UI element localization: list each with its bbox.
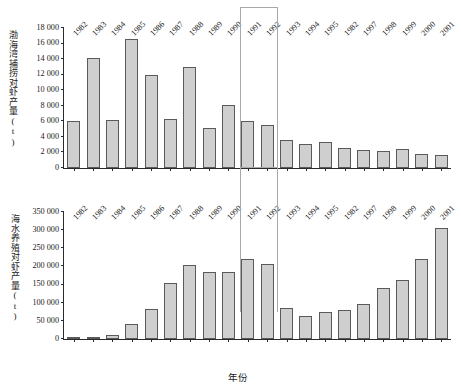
bar xyxy=(338,310,351,339)
bar xyxy=(280,308,293,339)
bar xyxy=(145,309,158,339)
bar xyxy=(415,154,428,168)
y-tick-label: 16 000 xyxy=(36,39,64,47)
y-tick-label: 50 000 xyxy=(36,317,64,325)
x-tick-mark xyxy=(228,339,229,342)
x-tick-mark xyxy=(287,168,288,171)
y-tick-label: 150 000 xyxy=(32,280,64,288)
x-tick-mark xyxy=(248,168,249,171)
x-tick-mark xyxy=(74,339,75,342)
y-axis-title-bottom: 海水养殖对虾产量(t) xyxy=(10,214,19,344)
bar xyxy=(261,264,274,339)
chart-panel-capture: 渤海湾捕捞对虾产量(t) 02 0004 0006 0008 00010 000… xyxy=(0,0,461,200)
x-tick-mark xyxy=(151,168,152,171)
bar-series-aquaculture xyxy=(64,212,451,339)
x-tick-mark xyxy=(403,339,404,342)
y-tick-label: 200 000 xyxy=(32,262,64,270)
x-tick-mark xyxy=(383,168,384,171)
x-tick-mark xyxy=(287,339,288,342)
bar xyxy=(357,304,370,339)
x-tick-mark xyxy=(267,168,268,171)
x-tick-mark xyxy=(403,168,404,171)
x-tick-mark xyxy=(345,339,346,342)
bar xyxy=(125,324,138,339)
bar xyxy=(338,148,351,168)
bar xyxy=(203,272,216,339)
bar xyxy=(67,121,80,168)
figure-container: 渤海湾捕捞对虾产量(t) 02 0004 0006 0008 00010 000… xyxy=(0,0,461,387)
bar xyxy=(261,125,274,168)
bar xyxy=(396,149,409,168)
x-tick-mark xyxy=(306,339,307,342)
x-tick-mark xyxy=(190,339,191,342)
x-tick-mark xyxy=(383,339,384,342)
x-tick-mark xyxy=(112,339,113,342)
bar xyxy=(222,105,235,168)
x-tick-mark xyxy=(209,339,210,342)
x-tick-mark xyxy=(93,339,94,342)
x-tick-mark xyxy=(441,168,442,171)
x-tick-mark xyxy=(209,168,210,171)
y-tick-label: 18 000 xyxy=(36,24,64,32)
bar xyxy=(222,272,235,339)
x-tick-mark xyxy=(170,168,171,171)
bar xyxy=(125,39,138,168)
bar xyxy=(164,283,177,339)
x-tick-mark xyxy=(345,168,346,171)
y-tick-label: 250 000 xyxy=(32,244,64,252)
y-tick-label: 12 000 xyxy=(36,71,64,79)
x-tick-mark xyxy=(267,339,268,342)
y-tick-label: 300 000 xyxy=(32,226,64,234)
x-tick-mark xyxy=(93,168,94,171)
y-tick-label: 0 xyxy=(55,335,64,343)
plot-area-top: 02 0004 0006 0008 00010 00012 00014 0001… xyxy=(63,28,451,169)
bar xyxy=(106,120,119,168)
y-tick-label: 100 000 xyxy=(32,299,64,307)
bar xyxy=(319,142,332,168)
x-tick-mark xyxy=(190,168,191,171)
y-tick-label: 6 000 xyxy=(41,117,64,125)
y-tick-label: 0 xyxy=(55,164,64,172)
x-tick-mark xyxy=(132,168,133,171)
x-tick-mark xyxy=(306,168,307,171)
x-tick-mark xyxy=(422,339,423,342)
bar xyxy=(415,259,428,339)
bar xyxy=(299,316,312,339)
bar xyxy=(299,144,312,168)
bar xyxy=(319,312,332,339)
bar xyxy=(396,280,409,339)
bar xyxy=(203,128,216,168)
bar xyxy=(435,155,448,168)
x-tick-mark xyxy=(441,339,442,342)
bar xyxy=(145,75,158,168)
bar xyxy=(377,288,390,339)
y-tick-label: 4 000 xyxy=(41,133,64,141)
x-tick-mark xyxy=(74,168,75,171)
x-tick-mark xyxy=(364,339,365,342)
y-tick-label: 10 000 xyxy=(36,86,64,94)
bar xyxy=(87,58,100,168)
plot-area-bottom: 050 000100 000150 000200 000250 000300 0… xyxy=(63,212,451,340)
bar xyxy=(435,228,448,339)
x-tick-mark xyxy=(228,168,229,171)
x-tick-mark xyxy=(422,168,423,171)
x-tick-mark xyxy=(325,339,326,342)
x-tick-mark xyxy=(112,168,113,171)
y-tick-label: 2 000 xyxy=(41,148,64,156)
chart-panel-aquaculture: 海水养殖对虾产量(t) 050 000100 000150 000200 000… xyxy=(0,190,461,387)
x-tick-mark xyxy=(248,339,249,342)
x-tick-mark xyxy=(132,339,133,342)
bar xyxy=(183,67,196,169)
bar xyxy=(241,259,254,339)
bar xyxy=(357,150,370,168)
bar xyxy=(280,140,293,168)
bar xyxy=(377,151,390,168)
x-tick-mark xyxy=(170,339,171,342)
y-tick-label: 350 000 xyxy=(32,208,64,216)
bar xyxy=(164,119,177,168)
x-axis-title: 年份 xyxy=(228,370,248,384)
y-tick-label: 14 000 xyxy=(36,55,64,63)
bar xyxy=(183,265,196,339)
y-axis-title-top: 渤海湾捕捞对虾产量(t) xyxy=(8,30,17,170)
x-tick-mark xyxy=(151,339,152,342)
